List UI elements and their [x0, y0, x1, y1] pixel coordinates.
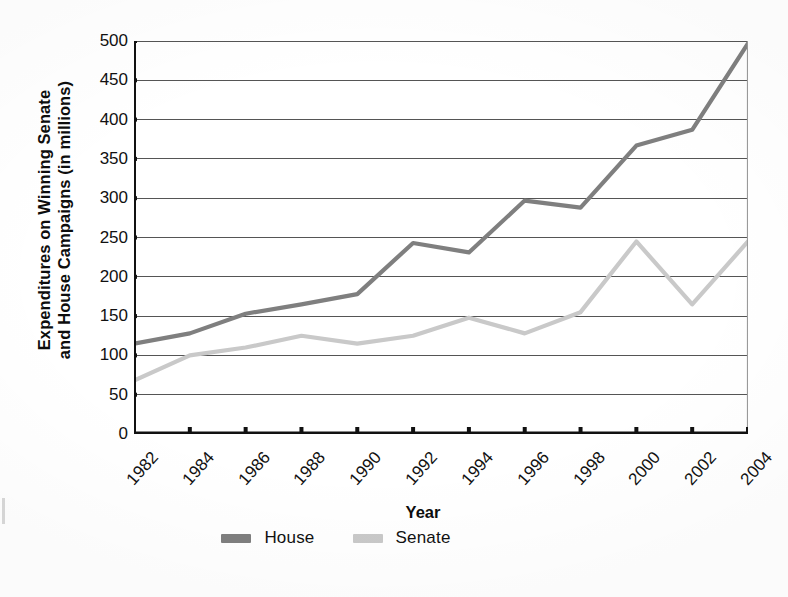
y-tick-label: 200	[100, 268, 128, 285]
x-axis-title-text: Year	[406, 503, 441, 522]
legend-label-senate: Senate	[396, 528, 451, 548]
y-tick-label: 350	[100, 150, 128, 167]
chart-legend: HouseSenate	[0, 528, 730, 548]
legend-swatch-senate	[353, 534, 383, 543]
legend-item: House	[221, 528, 314, 548]
y-tick-label: 400	[100, 111, 128, 128]
y-tick-label: 50	[109, 386, 128, 403]
y-tick-label: 500	[100, 32, 128, 49]
legend-label-house: House	[264, 528, 314, 548]
y-tick-label: 450	[100, 71, 128, 88]
series-line-house	[134, 43, 748, 343]
series-line-senate	[134, 241, 748, 380]
legend-swatch-house	[221, 534, 251, 543]
y-tick-label: 250	[100, 229, 128, 246]
y-tick-label: 150	[100, 307, 128, 324]
x-tick-label-group: 1982198419861988199019921994199619982000…	[0, 440, 788, 510]
y-axis-title-line1: Expenditures on Winning Senate	[34, 81, 54, 359]
legend-item: Senate	[353, 528, 451, 548]
y-axis-title-line2: and House Campaigns (in millions)	[54, 81, 74, 359]
chart-canvas	[134, 41, 748, 434]
plot-area	[134, 41, 748, 434]
chart-figure: Expenditures on Winning Senate and House…	[0, 0, 788, 597]
y-tick-label-group: 050100150200250300350400450500	[86, 0, 128, 500]
y-tick-label: 100	[100, 346, 128, 363]
y-tick-label: 300	[100, 189, 128, 206]
x-axis-title: Year	[0, 503, 788, 522]
